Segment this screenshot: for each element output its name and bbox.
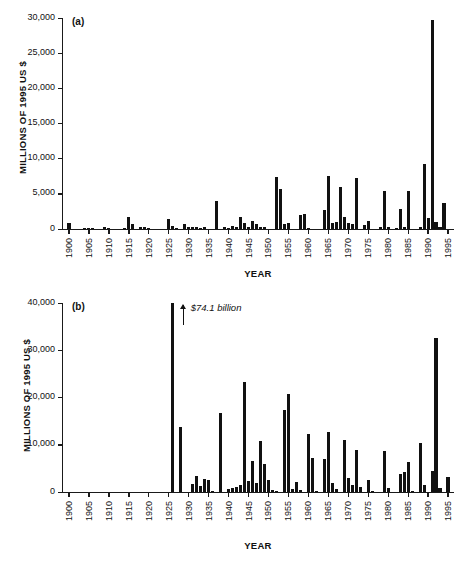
panel-a: MILLIONS OF 1995 US $ 05,00010,00015,000…	[0, 0, 466, 285]
bar	[399, 209, 402, 229]
x-tick-label: 1955	[283, 501, 293, 521]
y-tick-label: 20,000	[27, 82, 55, 92]
bar	[243, 382, 246, 492]
bar	[247, 481, 250, 492]
bar	[343, 440, 346, 492]
bar	[283, 224, 286, 229]
x-tick-mark	[248, 229, 249, 234]
figure-two-panel-bar-charts: MILLIONS OF 1995 US $ 05,00010,00015,000…	[0, 0, 466, 563]
x-tick-mark	[168, 492, 169, 497]
bar	[367, 480, 370, 492]
bar	[367, 221, 370, 229]
x-tick-label: 1935	[204, 501, 214, 521]
x-tick-mark	[208, 229, 209, 234]
x-tick-label: 1925	[164, 501, 174, 521]
bar	[283, 410, 286, 492]
x-tick-mark	[228, 229, 229, 234]
bar	[287, 223, 290, 229]
bar	[203, 227, 206, 229]
x-axis-title-panel-b: YEAR	[62, 540, 454, 551]
x-tick-mark	[447, 229, 448, 234]
y-tick-mark	[58, 158, 63, 159]
bar	[355, 450, 358, 492]
x-tick-label: 1905	[84, 238, 94, 258]
x-tick-label: 1920	[144, 238, 154, 258]
bar	[299, 215, 302, 229]
annotation-label: $74.1 billion	[191, 302, 242, 313]
x-tick-label: 1945	[244, 501, 254, 521]
y-tick-label: 25,000	[27, 47, 55, 57]
bar	[275, 177, 278, 229]
bar	[355, 178, 358, 229]
bar	[215, 201, 218, 229]
bar	[231, 488, 234, 492]
bar	[223, 227, 226, 229]
bar	[395, 228, 398, 229]
y-tick-label: 30,000	[27, 12, 55, 22]
x-tick-mark	[328, 492, 329, 497]
y-tick-mark	[58, 492, 63, 493]
bar	[87, 228, 90, 229]
y-tick-mark	[58, 397, 63, 398]
panel-label-a: (a)	[72, 16, 84, 27]
bar	[191, 484, 194, 492]
bar	[331, 223, 334, 229]
bar	[387, 488, 390, 492]
x-tick-label: 1990	[423, 501, 433, 521]
bar	[411, 491, 414, 492]
bar	[311, 458, 314, 492]
bar	[255, 483, 258, 492]
bar	[295, 482, 298, 492]
x-tick-label: 1975	[363, 238, 373, 258]
bar	[331, 483, 334, 492]
x-tick-mark	[268, 229, 269, 234]
bar	[107, 228, 110, 229]
x-tick-mark	[128, 229, 129, 234]
bar	[287, 394, 290, 492]
x-tick-label: 1960	[303, 501, 313, 521]
x-tick-label: 1965	[323, 238, 333, 258]
bar	[211, 491, 214, 492]
bar	[407, 191, 410, 229]
x-tick-mark	[188, 492, 189, 497]
x-tick-mark	[368, 229, 369, 234]
bar	[434, 338, 437, 493]
x-tick-label: 1925	[164, 238, 174, 258]
x-tick-label: 1915	[124, 238, 134, 258]
x-tick-mark	[188, 229, 189, 234]
bar	[403, 472, 406, 492]
bar	[423, 485, 426, 492]
x-tick-label: 1910	[104, 501, 114, 521]
x-tick-mark	[128, 492, 129, 497]
bar	[123, 228, 126, 229]
y-tick-label: 40,000	[27, 297, 55, 307]
bar	[427, 218, 430, 229]
bar	[279, 189, 282, 229]
bar	[303, 214, 306, 229]
bar	[227, 228, 230, 229]
bar	[195, 476, 198, 492]
x-tick-label: 1935	[204, 238, 214, 258]
x-tick-mark	[228, 492, 229, 497]
x-tick-mark	[368, 492, 369, 497]
bar	[183, 224, 186, 229]
y-tick-mark	[58, 123, 63, 124]
x-tick-label: 1940	[224, 501, 234, 521]
bar	[327, 176, 330, 229]
bar	[195, 227, 198, 229]
bar	[399, 474, 402, 492]
bar	[347, 223, 350, 229]
x-tick-mark	[427, 492, 428, 497]
x-tick-mark	[348, 229, 349, 234]
x-tick-mark	[348, 492, 349, 497]
x-tick-label: 1905	[84, 501, 94, 521]
x-tick-mark	[108, 229, 109, 234]
x-tick-mark	[288, 492, 289, 497]
y-tick-label: 0	[50, 486, 55, 496]
panel-label-b: (b)	[72, 301, 85, 312]
bar	[243, 223, 246, 229]
x-tick-mark	[268, 492, 269, 497]
bar	[187, 227, 190, 229]
x-tick-label: 1955	[283, 238, 293, 258]
bar	[83, 228, 86, 229]
